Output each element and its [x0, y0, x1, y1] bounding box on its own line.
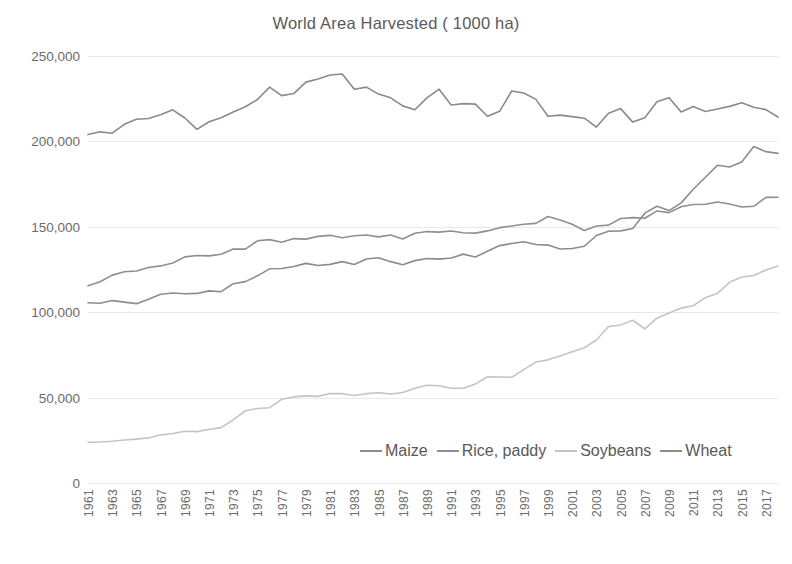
series-lines — [88, 56, 778, 483]
x-tick-label: 2013 — [711, 489, 725, 517]
series-line-maize — [88, 147, 778, 304]
legend-label: Maize — [385, 443, 428, 459]
x-tick-label: 1989 — [421, 489, 435, 517]
x-tick-label: 1997 — [518, 489, 532, 517]
y-tick-label: 250,000 — [0, 49, 80, 64]
x-tick-label: 1999 — [542, 489, 556, 517]
legend-label: Wheat — [685, 443, 731, 459]
x-tick-label: 1977 — [276, 489, 290, 517]
series-line-rice-paddy — [88, 197, 778, 285]
legend-item-rice-paddy[interactable]: Rice, paddy — [437, 443, 547, 459]
x-tick-label: 1991 — [445, 489, 459, 517]
x-tick-label: 1987 — [397, 489, 411, 517]
y-tick-label: 150,000 — [0, 219, 80, 234]
y-tick-label: 50,000 — [0, 390, 80, 405]
x-tick-label: 1963 — [106, 489, 120, 517]
x-tick-label: 2001 — [566, 489, 580, 517]
series-line-wheat — [88, 74, 778, 135]
x-tick-label: 1967 — [155, 489, 169, 517]
y-tick-label: 0 — [0, 476, 80, 491]
chart-legend: MaizeRice, paddySoybeansWheat — [360, 443, 732, 459]
legend-swatch-icon — [437, 450, 459, 452]
x-tick-label: 2009 — [663, 489, 677, 517]
x-tick-label: 1979 — [300, 489, 314, 517]
x-tick-label: 1995 — [494, 489, 508, 517]
x-tick-label: 2003 — [590, 489, 604, 517]
chart-title: World Area Harvested ( 1000 ha) — [0, 14, 792, 33]
x-tick-label: 1983 — [348, 489, 362, 517]
y-axis: 050,000100,000150,000200,000250,000 — [0, 56, 80, 483]
legend-label: Soybeans — [580, 443, 651, 459]
gridline — [88, 483, 778, 484]
x-tick-label: 1961 — [82, 489, 96, 517]
x-tick-label: 2011 — [687, 489, 701, 516]
legend-label: Rice, paddy — [462, 443, 547, 459]
x-axis: 1961196319651967196919711973197519771979… — [88, 489, 778, 551]
x-tick-label: 2007 — [639, 489, 653, 517]
x-tick-label: 1969 — [179, 489, 193, 517]
plot-area — [88, 56, 778, 483]
x-tick-label: 2005 — [615, 489, 629, 517]
legend-swatch-icon — [360, 450, 382, 452]
x-tick-label: 1965 — [130, 489, 144, 517]
x-tick-label: 1973 — [227, 489, 241, 517]
legend-item-maize[interactable]: Maize — [360, 443, 428, 459]
legend-swatch-icon — [555, 450, 577, 452]
series-line-soybeans — [88, 266, 778, 442]
x-tick-label: 1975 — [251, 489, 265, 517]
x-tick-label: 1981 — [324, 489, 338, 517]
y-tick-label: 200,000 — [0, 134, 80, 149]
legend-item-wheat[interactable]: Wheat — [660, 443, 731, 459]
x-tick-label: 1971 — [203, 489, 217, 517]
x-tick-label: 1993 — [469, 489, 483, 517]
x-tick-label: 2015 — [736, 489, 750, 517]
chart-container: World Area Harvested ( 1000 ha) 050,0001… — [0, 0, 792, 564]
legend-swatch-icon — [660, 450, 682, 452]
y-tick-label: 100,000 — [0, 305, 80, 320]
x-tick-label: 2017 — [760, 489, 774, 517]
x-tick-label: 1985 — [373, 489, 387, 517]
legend-item-soybeans[interactable]: Soybeans — [555, 443, 651, 459]
